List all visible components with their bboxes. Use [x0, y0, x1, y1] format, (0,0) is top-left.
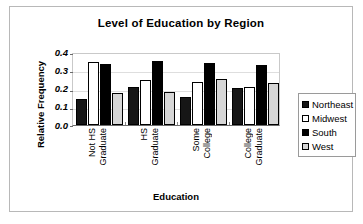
legend-swatch-icon — [302, 115, 309, 122]
x-tick-label: CollegeGraduate — [228, 128, 280, 190]
bar-northeast — [232, 88, 243, 125]
bar-group — [229, 54, 281, 125]
bar-south — [256, 65, 267, 125]
x-tick-label: SomeCollege — [176, 128, 228, 190]
bar-south — [100, 64, 111, 125]
bar-group — [125, 54, 177, 125]
x-tick-label-line: Graduate — [150, 128, 161, 166]
x-tick-label-line: Graduate — [254, 128, 265, 166]
legend-label: Northeast — [312, 99, 353, 110]
legend-item-south: South — [302, 125, 353, 139]
bars-layer — [73, 54, 279, 125]
x-tick-label-line: HS — [139, 128, 150, 141]
legend-swatch-icon — [302, 129, 309, 136]
x-tick-label-line: College — [202, 128, 213, 159]
bar-west — [164, 92, 175, 125]
y-tickmark — [70, 126, 73, 127]
x-tick-label: HSGraduate — [124, 128, 176, 190]
y-tick-label: 0.3 — [42, 66, 68, 76]
x-axis-tick-labels: Not HSGraduateHSGraduateSomeCollegeColle… — [72, 128, 280, 190]
x-tick-label-line: College — [243, 128, 254, 159]
y-tickmark — [70, 91, 73, 92]
legend-label: West — [312, 141, 333, 152]
y-tickmark — [70, 109, 73, 110]
category-separator — [125, 122, 126, 125]
bar-west — [268, 83, 279, 125]
x-tick-label: Not HSGraduate — [72, 128, 124, 190]
legend-swatch-icon — [302, 143, 309, 150]
bar-south — [204, 63, 215, 125]
legend-item-west: West — [302, 139, 353, 153]
bar-northeast — [128, 87, 139, 125]
bar-west — [112, 93, 123, 125]
legend-label: Midwest — [312, 113, 347, 124]
y-tick-label: 0.0 — [42, 121, 68, 131]
chart-legend: NortheastMidwestSouthWest — [298, 93, 356, 157]
bar-midwest — [88, 62, 99, 125]
bar-northeast — [76, 99, 87, 125]
bar-west — [216, 79, 227, 125]
legend-label: South — [312, 127, 337, 138]
plot-area — [72, 53, 280, 126]
y-tickmark — [70, 72, 73, 73]
y-tick-label: 0.4 — [42, 48, 68, 58]
x-tick-label-line: Graduate — [98, 128, 109, 166]
bar-northeast — [180, 97, 191, 125]
bar-midwest — [244, 87, 255, 125]
bar-midwest — [140, 80, 151, 125]
legend-item-northeast: Northeast — [302, 97, 353, 111]
y-axis-tick-labels: 0.00.10.20.30.4 — [42, 48, 68, 128]
x-tick-label-line: Not HS — [87, 128, 98, 157]
y-tickmark — [70, 54, 73, 55]
chart-title: Level of Education by Region — [10, 17, 352, 29]
bar-south — [152, 61, 163, 125]
legend-item-midwest: Midwest — [302, 111, 353, 125]
y-tick-label: 0.1 — [42, 102, 68, 112]
bar-group — [73, 54, 125, 125]
category-separator — [229, 122, 230, 125]
category-separator — [177, 122, 178, 125]
x-tick-label-line: Some — [191, 128, 202, 152]
y-tick-label: 0.2 — [42, 84, 68, 94]
legend-swatch-icon — [302, 101, 309, 108]
x-axis-title: Education — [72, 191, 280, 202]
chart-frame: Level of Education by Region Relative Fr… — [9, 6, 353, 212]
bar-midwest — [192, 82, 203, 125]
bar-group — [177, 54, 229, 125]
